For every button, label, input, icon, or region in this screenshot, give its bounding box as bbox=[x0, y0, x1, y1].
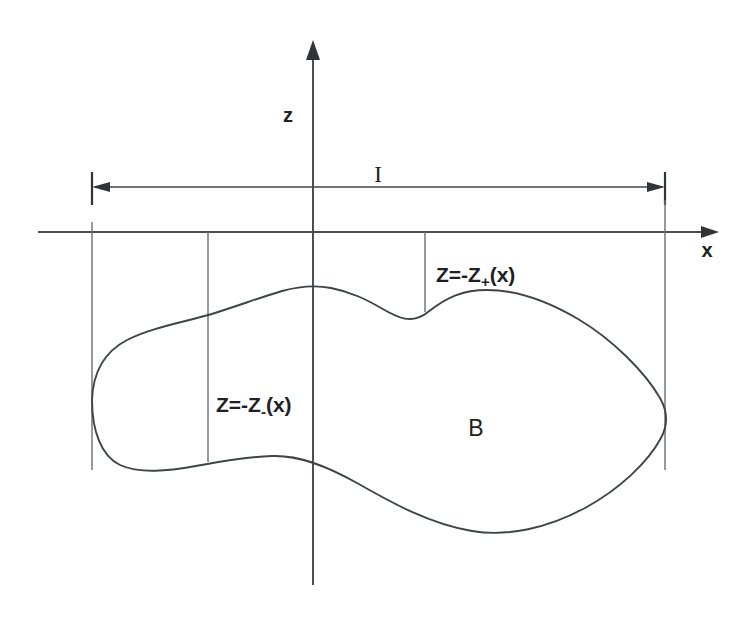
interval-right-arrow-icon bbox=[647, 182, 665, 192]
upper-boundary-prefix: Z=-Z bbox=[436, 263, 481, 286]
z-axis-arrow-icon bbox=[306, 40, 320, 60]
x-axis-arrow-icon bbox=[701, 226, 719, 238]
z-axis-label: z bbox=[283, 104, 293, 126]
z-axis bbox=[306, 40, 320, 585]
vertical-chords bbox=[92, 200, 665, 470]
region-diagram: z x I B Z=-Z+(x) Z=-Z-(x) bbox=[0, 0, 743, 627]
interval-left-arrow-icon bbox=[92, 182, 110, 192]
lower-boundary-label: Z=-Z-(x) bbox=[216, 393, 292, 420]
lower-boundary-suffix: (x) bbox=[266, 393, 292, 416]
lower-boundary-prefix: Z=-Z bbox=[216, 393, 261, 416]
figure-canvas: z x I B Z=-Z+(x) Z=-Z-(x) bbox=[0, 0, 743, 627]
x-axis bbox=[38, 226, 719, 238]
region-boundary-curve bbox=[92, 286, 666, 533]
upper-boundary-suffix: (x) bbox=[490, 263, 516, 286]
upper-boundary-subscript: + bbox=[481, 273, 490, 290]
interval-label: I bbox=[374, 162, 382, 187]
x-axis-label: x bbox=[701, 239, 712, 261]
region-label: B bbox=[468, 415, 483, 441]
upper-boundary-label: Z=-Z+(x) bbox=[436, 263, 515, 290]
